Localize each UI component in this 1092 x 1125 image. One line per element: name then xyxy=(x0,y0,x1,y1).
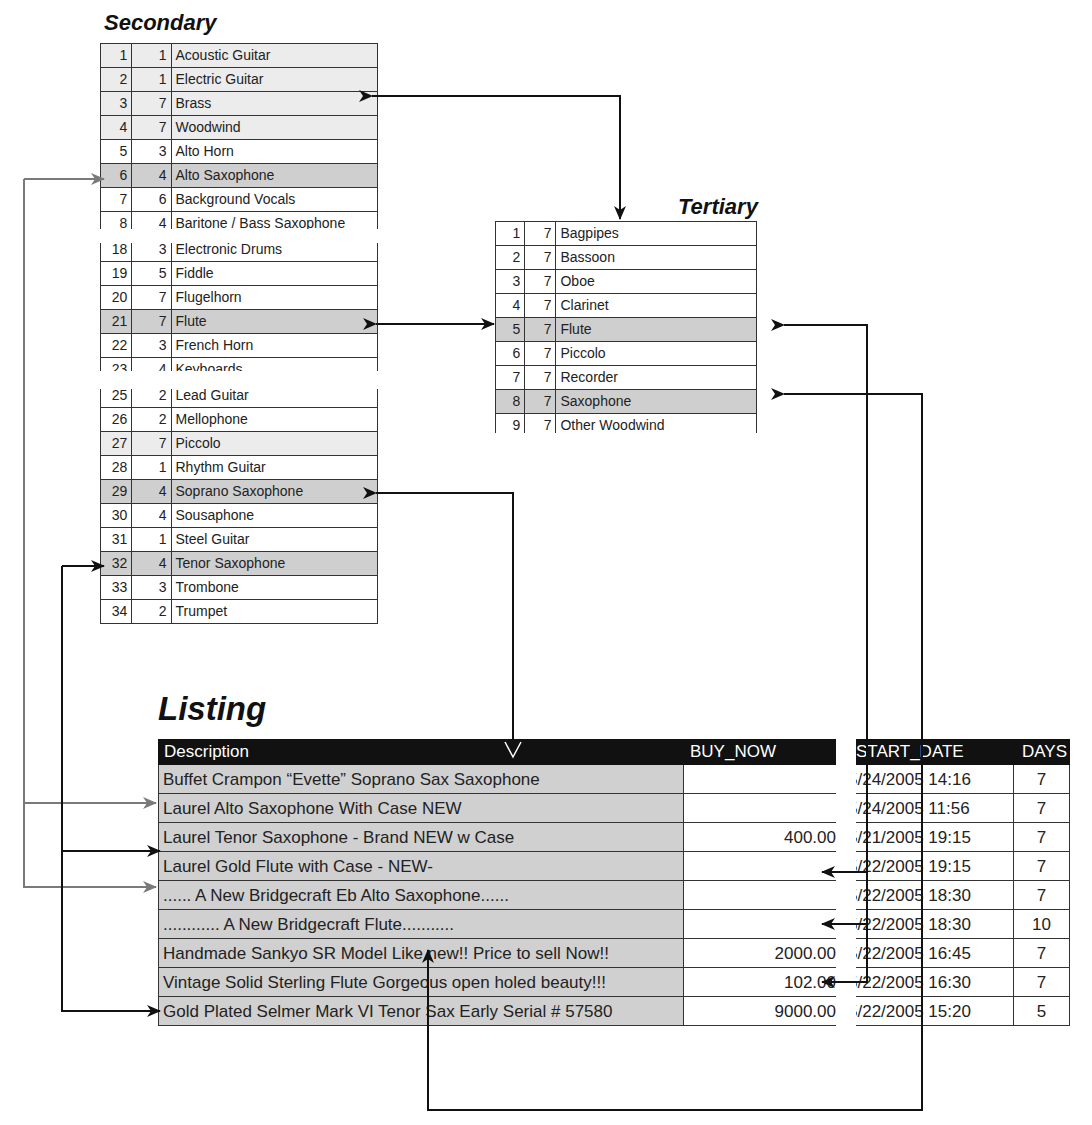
cell-id: 5 xyxy=(101,140,132,164)
table-row[interactable]: 304Sousaphone xyxy=(101,504,378,528)
listing-description-cell: Laurel Alto Saxophone With Case NEW xyxy=(158,794,684,823)
listing-buy-now-cell: 102.00 xyxy=(684,968,836,997)
table-row[interactable]: 27Bassoon xyxy=(496,246,757,270)
table-row[interactable]: 195Fiddle xyxy=(101,262,378,286)
table-row[interactable]: 294Soprano Saxophone xyxy=(101,480,378,504)
cell-id: 3 xyxy=(496,270,525,294)
listing-days-cell: 7 xyxy=(1014,794,1070,823)
table-row[interactable]: 324Tenor Saxophone xyxy=(101,552,378,576)
cell-name: Oboe xyxy=(556,270,757,294)
listing-buy-now-cell xyxy=(684,910,836,939)
cell-name: Bagpipes xyxy=(556,222,757,246)
listing-buy-now-cell xyxy=(684,852,836,881)
column-header-days[interactable]: DAYS xyxy=(1014,739,1070,765)
listing-days-cell: 7 xyxy=(1014,939,1070,968)
cell-id: 23 xyxy=(101,358,132,372)
listing-description-cell: ...... A New Bridgecraft Eb Alto Saxopho… xyxy=(158,881,684,910)
cell-id: 8 xyxy=(496,390,525,414)
cell-cat: 7 xyxy=(525,294,556,318)
listing-start-date-cell: 5/22/2005 16:45 xyxy=(856,939,1014,968)
cell-name: Saxophone xyxy=(556,390,757,414)
table-row[interactable]: 281Rhythm Guitar xyxy=(101,456,378,480)
column-header-buy-now[interactable]: BUY_NOW xyxy=(684,739,836,765)
cell-id: 29 xyxy=(101,480,132,504)
listing-start-date-cell: 5/24/2005 11:56 xyxy=(856,794,1014,823)
table-row[interactable]: 57Flute xyxy=(496,318,757,342)
table-row[interactable]: 37Oboe xyxy=(496,270,757,294)
listing-description-cell: Gold Plated Selmer Mark VI Tenor Sax Ear… xyxy=(158,997,684,1026)
cell-id: 21 xyxy=(101,310,132,334)
cell-name: Flugelhorn xyxy=(171,286,378,310)
table-row[interactable]: 262Mellophone xyxy=(101,408,378,432)
cell-id: 34 xyxy=(101,600,132,624)
secondary-table-block-3: 252Lead Guitar262Mellophone277Piccolo281… xyxy=(100,389,382,631)
table-row[interactable]: 87Saxophone xyxy=(496,390,757,414)
cell-name: Piccolo xyxy=(556,342,757,366)
cell-cat: 7 xyxy=(525,318,556,342)
table-row[interactable]: 47Woodwind xyxy=(101,116,378,140)
listing-start-date-cell: 5/21/2005 19:15 xyxy=(856,823,1014,852)
table-row[interactable]: 333Trombone xyxy=(101,576,378,600)
cell-name: Alto Saxophone xyxy=(171,164,378,188)
cell-id: 8 xyxy=(101,212,132,230)
cell-cat: 1 xyxy=(132,44,171,68)
secondary-table-block-1: 11Acoustic Guitar21Electric Guitar37Bras… xyxy=(100,43,382,229)
column-header-description[interactable]: Description xyxy=(158,739,684,765)
table-row[interactable]: 311Steel Guitar xyxy=(101,528,378,552)
cell-name: Other Woodwind xyxy=(556,414,757,434)
table-row[interactable]: 53Alto Horn xyxy=(101,140,378,164)
cell-cat: 2 xyxy=(132,408,171,432)
listing-description-cell: Handmade Sankyo SR Model Like new!! Pric… xyxy=(158,939,684,968)
table-row[interactable]: 207Flugelhorn xyxy=(101,286,378,310)
table-row[interactable]: 183Electronic Drums xyxy=(101,243,378,262)
cell-cat: 7 xyxy=(132,432,171,456)
table-row[interactable]: 277Piccolo xyxy=(101,432,378,456)
table-row[interactable]: 37Brass xyxy=(101,92,378,116)
cell-id: 5 xyxy=(496,318,525,342)
cell-cat: 3 xyxy=(132,243,171,262)
cell-cat: 7 xyxy=(525,342,556,366)
cell-name: Flute xyxy=(556,318,757,342)
table-row[interactable]: 47Clarinet xyxy=(496,294,757,318)
table-row[interactable]: 64Alto Saxophone xyxy=(101,164,378,188)
cell-cat: 5 xyxy=(132,262,171,286)
table-row[interactable]: 252Lead Guitar xyxy=(101,389,378,408)
cell-name: Sousaphone xyxy=(171,504,378,528)
cell-id: 4 xyxy=(496,294,525,318)
cell-id: 18 xyxy=(101,243,132,262)
cell-id: 22 xyxy=(101,334,132,358)
listing-table: Description BUY_NOW START_DATE DAYS Buff… xyxy=(158,739,1088,1039)
listing-days-cell: 7 xyxy=(1014,881,1070,910)
cell-id: 25 xyxy=(101,389,132,408)
table-row[interactable]: 84Baritone / Bass Saxophone xyxy=(101,212,378,230)
table-row[interactable]: 67Piccolo xyxy=(496,342,757,366)
listing-description-cell: Vintage Solid Sterling Flute Gorgeous op… xyxy=(158,968,684,997)
cell-name: Acoustic Guitar xyxy=(171,44,378,68)
cell-cat: 2 xyxy=(132,600,171,624)
table-row[interactable]: 217Flute xyxy=(101,310,378,334)
listing-buy-now-cell: 9000.00 xyxy=(684,997,836,1026)
cell-cat: 7 xyxy=(525,246,556,270)
cell-name: Piccolo xyxy=(171,432,378,456)
table-row[interactable]: 11Acoustic Guitar xyxy=(101,44,378,68)
table-row[interactable]: 342Trumpet xyxy=(101,600,378,624)
secondary-table-block-2: 183Electronic Drums195Fiddle207Flugelhor… xyxy=(100,243,382,371)
cell-name: Clarinet xyxy=(556,294,757,318)
table-row[interactable]: 97Other Woodwind xyxy=(496,414,757,434)
table-row[interactable]: 21Electric Guitar xyxy=(101,68,378,92)
cell-name: Electronic Drums xyxy=(171,243,378,262)
listing-days-cell: 7 xyxy=(1014,823,1070,852)
cell-id: 33 xyxy=(101,576,132,600)
cell-cat: 7 xyxy=(525,366,556,390)
cell-id: 20 xyxy=(101,286,132,310)
table-row[interactable]: 17Bagpipes xyxy=(496,222,757,246)
cell-cat: 1 xyxy=(132,528,171,552)
table-row[interactable]: 77Recorder xyxy=(496,366,757,390)
cell-id: 19 xyxy=(101,262,132,286)
table-row[interactable]: 234Keyboards xyxy=(101,358,378,372)
column-header-start-date[interactable]: START_DATE xyxy=(856,739,1014,765)
table-row[interactable]: 76Background Vocals xyxy=(101,188,378,212)
listing-description-cell: Buffet Crampon “Evette” Soprano Sax Saxo… xyxy=(158,765,684,794)
cell-id: 32 xyxy=(101,552,132,576)
table-row[interactable]: 223French Horn xyxy=(101,334,378,358)
